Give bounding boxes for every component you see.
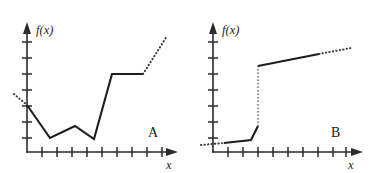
panel-b-y-axis-label: f(x) bbox=[222, 23, 239, 37]
panel-b-x-axis-label: x bbox=[347, 158, 354, 172]
panel-a-caption: A bbox=[148, 125, 159, 140]
panel-a-dotted-left-extension bbox=[14, 94, 27, 105]
chart-panel-b: f(x) x B bbox=[188, 0, 377, 173]
panel-b-curve-lower bbox=[224, 126, 258, 143]
panel-a-x-axis-label: x bbox=[165, 158, 172, 172]
panel-b-curve-upper bbox=[258, 54, 319, 66]
panel-b-dotted-right-extension bbox=[319, 48, 351, 54]
chart-panel-a: f(x) x A bbox=[0, 0, 188, 173]
panel-a-y-axis-label: f(x) bbox=[36, 23, 53, 37]
panel-b-dotted-left-extension bbox=[201, 143, 224, 145]
panel-a-dotted-right-extension bbox=[143, 36, 167, 74]
panel-b-caption: B bbox=[331, 125, 340, 140]
panel-a-curve bbox=[27, 74, 143, 139]
figure-container: f(x) x A bbox=[0, 0, 377, 173]
